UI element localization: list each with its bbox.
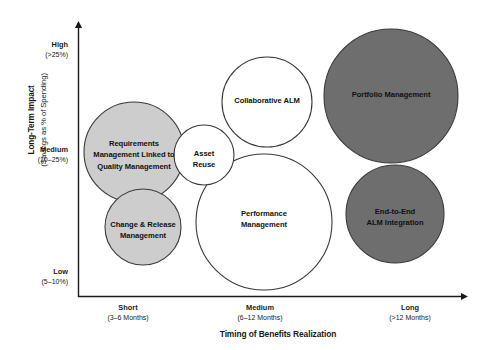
y-tick-low: Low (5–10%) <box>8 267 68 286</box>
y-tick-medium-sub: (10–25%) <box>8 155 68 164</box>
x-tick-short-label: Short <box>73 303 183 313</box>
bubble-portfolio-management[interactable] <box>324 29 458 163</box>
y-tick-high: High (>25%) <box>8 40 68 59</box>
bubble-collaborative-alm[interactable] <box>222 57 312 147</box>
x-tick-long: Long (>12 Months) <box>355 303 465 322</box>
x-tick-medium: Medium (6–12 Months) <box>205 303 315 322</box>
y-tick-medium: Medium (10–25%) <box>8 145 68 164</box>
x-tick-medium-sub: (6–12 Months) <box>205 313 315 322</box>
x-tick-short-sub: (3–6 Months) <box>73 313 183 322</box>
y-tick-high-sub: (>25%) <box>8 50 68 59</box>
x-tick-short: Short (3–6 Months) <box>73 303 183 322</box>
x-tick-medium-label: Medium <box>205 303 315 313</box>
bubble-end-to-end-alm-integration[interactable] <box>346 165 444 263</box>
y-tick-high-label: High <box>8 40 68 50</box>
y-tick-low-label: Low <box>8 267 68 277</box>
bubble-chart: Long-Term Impact (Savings as % of Spendi… <box>0 0 479 350</box>
x-tick-long-label: Long <box>355 303 465 313</box>
bubble-requirements-management[interactable] <box>84 102 184 202</box>
x-axis-title: Timing of Benefits Realization <box>78 329 478 339</box>
chart-canvas <box>0 0 479 350</box>
x-tick-long-sub: (>12 Months) <box>355 313 465 322</box>
bubble-asset-reuse[interactable] <box>174 125 234 185</box>
y-tick-medium-label: Medium <box>8 145 68 155</box>
bubble-change-and-release-management[interactable] <box>105 189 181 265</box>
y-tick-low-sub: (5–10%) <box>8 277 68 286</box>
